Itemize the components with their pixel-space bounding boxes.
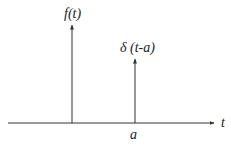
f-label: f(t) [64,6,81,22]
axis-label-t: t [221,115,226,130]
diagram-canvas: f(t) δ (t-a) t a [0,0,231,146]
shift-label-a: a [130,127,137,142]
delta-label: δ (t-a) [120,40,155,56]
